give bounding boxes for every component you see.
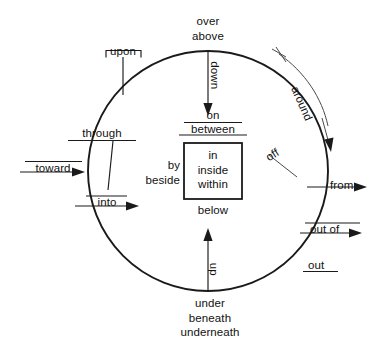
label-on: on — [207, 108, 220, 123]
from-arrow-head — [354, 182, 367, 191]
label-from: from — [330, 178, 353, 193]
prepositions-diagram: over above down upon through toward into… — [0, 0, 380, 347]
label-upon: upon — [110, 44, 136, 59]
label-out: out — [308, 258, 324, 273]
label-underneath: underneath — [180, 325, 239, 340]
toward-arrow-head — [72, 167, 85, 176]
label-above: above — [192, 29, 224, 44]
label-down: down — [208, 61, 223, 89]
up-arrow-head — [203, 228, 212, 241]
label-under-beneath-underneath: under beneath underneath — [180, 296, 239, 340]
label-through: through — [82, 126, 122, 141]
label-under: under — [180, 296, 239, 311]
label-beside: beside — [140, 173, 180, 188]
label-over: over — [192, 14, 224, 29]
label-in-inside-within: in inside within — [198, 148, 229, 192]
label-below: below — [198, 203, 229, 218]
label-by: by — [140, 158, 180, 173]
label-by-beside: by beside — [140, 158, 180, 187]
label-toward: toward — [35, 161, 70, 176]
label-within: within — [198, 177, 229, 192]
label-beneath: beneath — [180, 311, 239, 326]
label-out-of: out of — [310, 222, 339, 237]
label-in: in — [198, 148, 229, 163]
label-between: between — [191, 122, 235, 137]
label-up: up — [207, 263, 222, 276]
into-arrow-head — [126, 201, 139, 210]
label-over-above: over above — [192, 14, 224, 43]
out-of-arrow-head — [349, 228, 362, 237]
through-crossing-line — [108, 141, 113, 190]
label-inside: inside — [198, 163, 229, 178]
label-into: into — [98, 195, 117, 210]
